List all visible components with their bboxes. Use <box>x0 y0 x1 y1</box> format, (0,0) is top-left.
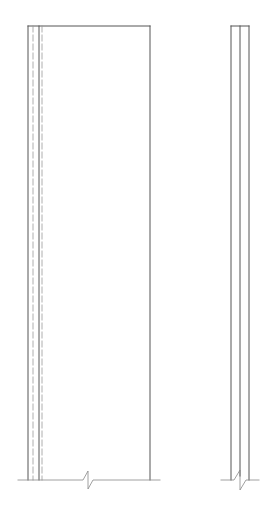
drawing-canvas <box>0 0 271 520</box>
side-ground-break-line <box>221 470 259 490</box>
side-elevation <box>221 26 259 490</box>
elevation-drawing <box>0 0 271 520</box>
front-elevation <box>18 26 160 489</box>
